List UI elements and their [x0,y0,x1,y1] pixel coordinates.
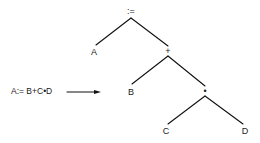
node-plus: + [165,47,170,56]
edge-times-c [168,96,205,124]
edge-root-a [96,18,131,45]
node-b: B [128,88,134,97]
node-c: C [163,127,170,136]
edge-plus-b [132,56,168,84]
node-d: D [242,127,249,136]
edge-times-d [205,96,243,124]
edge-plus-times [168,56,205,86]
node-times: • [203,87,206,96]
node-assign: := [127,7,135,16]
tree-edges [0,0,260,143]
source-expression: A:= B+C•D [11,87,52,96]
edge-root-plus [131,18,168,46]
right-arrow-icon [94,90,101,94]
node-a: A [91,48,97,57]
parse-tree-diagram: := A + B • C D A:= B+C•D [0,0,260,143]
